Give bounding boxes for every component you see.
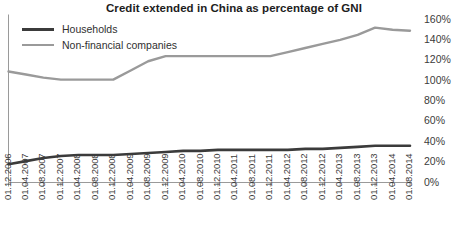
x-axis-tick-label: 01.12.2006	[2, 153, 13, 200]
y-axis-tick-label: 0%	[424, 176, 439, 188]
series-line-households	[9, 146, 411, 164]
y-axis-tick-label: 80%	[424, 94, 445, 106]
plot-area	[0, 0, 468, 243]
x-axis-tick-label: 01.04.2009	[124, 153, 135, 200]
y-axis-tick-label: 60%	[424, 114, 445, 126]
x-axis-tick-label: 01.12.2010	[211, 153, 222, 200]
x-axis-tick-label: 01.12.2011	[263, 154, 274, 200]
series-line-non-financial-companies	[9, 28, 411, 80]
x-axis-tick-label: 01.12.2012	[316, 153, 327, 200]
y-axis-tick-label: 20%	[424, 155, 445, 167]
y-axis-tick-label: 160%	[424, 13, 451, 25]
x-axis-tick-label: 01.04.2011	[228, 154, 239, 200]
x-axis-tick-label: 01.04.2007	[19, 153, 30, 200]
y-axis-tick-label: 140%	[424, 33, 451, 45]
x-axis-tick-label: 01.04.2012	[281, 153, 292, 200]
y-axis-tick-label: 100%	[424, 74, 451, 86]
x-axis-tick-label: 01.12.2007	[54, 153, 65, 200]
x-axis-tick-label: 01.08.2007	[36, 153, 47, 200]
x-axis-tick-label: 01.08.2011	[246, 154, 257, 200]
x-axis-tick-label: 01.08.2010	[194, 153, 205, 200]
x-axis-tick-label: 01.12.2008	[106, 153, 117, 200]
chart-container: Credit extended in China as percentage o…	[0, 0, 468, 243]
x-axis-tick-label: 01.08.2012	[298, 153, 309, 200]
x-axis-tick-label: 01.08.2009	[141, 153, 152, 200]
x-axis-tick-label: 01.12.2009	[159, 153, 170, 200]
x-axis-tick-label: 01.08.2008	[89, 153, 100, 200]
x-axis-tick-label: 01.08.2014	[403, 153, 414, 200]
y-axis-tick-label: 40%	[424, 135, 445, 147]
x-axis-tick-label: 01.04.2014	[386, 153, 397, 200]
x-axis-tick-label: 01.04.2013	[333, 153, 344, 200]
x-axis-tick-label: 01.04.2010	[176, 153, 187, 200]
y-axis-tick-label: 120%	[424, 53, 451, 65]
x-axis-tick-label: 01.08.2013	[351, 153, 362, 200]
x-axis-tick-label: 01.04.2008	[71, 153, 82, 200]
x-axis-tick-label: 01.12.2013	[368, 153, 379, 200]
